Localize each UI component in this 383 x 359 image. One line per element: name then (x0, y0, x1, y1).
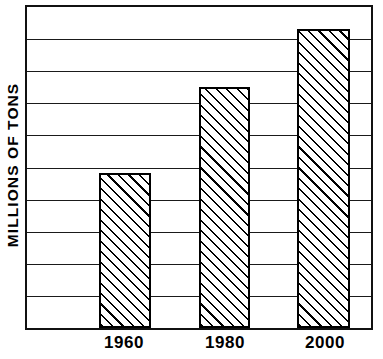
x-axis-label-1980: 1980 (205, 333, 245, 353)
bars-layer (27, 7, 371, 328)
bar-2000 (297, 29, 349, 328)
plot-frame (25, 5, 373, 330)
y-axis-title: MILLIONS OF TONS (0, 0, 26, 330)
bar-1980 (199, 87, 250, 328)
x-axis-label-2000: 2000 (305, 333, 345, 353)
x-axis-labels: 196019802000 (25, 333, 373, 359)
y-axis-title-label: MILLIONS OF TONS (4, 83, 22, 248)
bar-1960 (99, 173, 151, 328)
bar-chart: MILLIONS OF TONS 196019802000 (0, 0, 383, 359)
x-axis-label-1960: 1960 (104, 333, 144, 353)
